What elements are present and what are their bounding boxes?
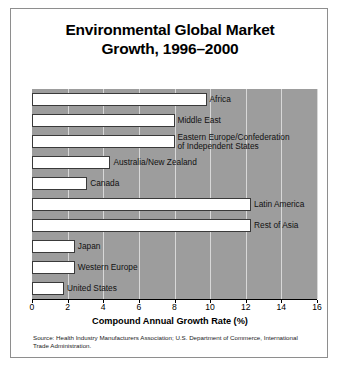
bar-row: Africa: [32, 93, 317, 106]
x-tick-label: 0: [21, 302, 43, 312]
bar-row: Middle East: [32, 114, 317, 127]
bar: [32, 93, 207, 106]
bar-row: Western Europe: [32, 261, 317, 274]
x-tick-label: 16: [306, 302, 328, 312]
bar: [32, 135, 175, 148]
x-tick-label: 2: [57, 302, 79, 312]
bar-label: Africa: [210, 95, 231, 104]
bar: [32, 177, 87, 190]
x-tick-label: 8: [164, 302, 186, 312]
bar-label: Western Europe: [78, 263, 138, 272]
bar-row: Japan: [32, 240, 317, 253]
gridline: [317, 89, 318, 299]
bar: [32, 198, 251, 211]
bar-label: Japan: [78, 242, 101, 251]
bar: [32, 156, 110, 169]
chart-title-line-2: Growth, 1996–2000: [11, 39, 329, 58]
bar-label: Eastern Europe/Confederationof Independe…: [178, 132, 290, 150]
bar: [32, 114, 175, 127]
x-tick-label: 10: [199, 302, 221, 312]
x-tick-label: 12: [235, 302, 257, 312]
bar: [32, 282, 64, 295]
bar-row: United States: [32, 282, 317, 295]
x-axis-label: Compound Annual Growth Rate (%): [11, 316, 329, 326]
x-tick-label: 4: [92, 302, 114, 312]
x-tick-label: 6: [128, 302, 150, 312]
bar-label: Australia/New Zealand: [113, 158, 196, 167]
source-note: Source: Health Industry Manufacturers As…: [33, 334, 311, 350]
bar: [32, 240, 75, 253]
plot-area: AfricaMiddle EastEastern Europe/Confeder…: [32, 89, 317, 299]
bar: [32, 219, 251, 232]
bar-row: Rest of Asia: [32, 219, 317, 232]
bar-row: Eastern Europe/Confederationof Independe…: [32, 135, 317, 148]
chart-title: Environmental Global Market Growth, 1996…: [11, 20, 329, 58]
bar-label: Rest of Asia: [254, 221, 298, 230]
bar: [32, 261, 75, 274]
bar-label: United States: [67, 284, 117, 293]
bar-row: Canada: [32, 177, 317, 190]
chart-title-line-1: Environmental Global Market: [65, 21, 274, 38]
bar-row: Latin America: [32, 198, 317, 211]
x-tick-label: 14: [270, 302, 292, 312]
bar-row: Australia/New Zealand: [32, 156, 317, 169]
bar-label: Canada: [90, 179, 119, 188]
bar-label: Latin America: [254, 200, 304, 209]
chart-figure: Environmental Global Market Growth, 1996…: [10, 8, 328, 358]
bar-label: Middle East: [178, 116, 221, 125]
